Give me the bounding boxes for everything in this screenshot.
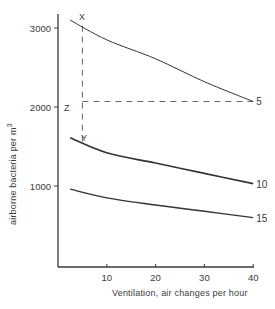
- curves: 51015: [70, 20, 268, 224]
- y-axis-label-sup: 3: [6, 123, 13, 127]
- y-tick-label: 3000: [30, 23, 51, 34]
- y-axis-label-text: airborne bacteria per m: [8, 127, 18, 225]
- y-ticks: 100020003000: [30, 23, 58, 192]
- curve-10: [70, 138, 253, 184]
- svg-text:airborne bacteria per m3: airborne bacteria per m3: [6, 123, 18, 225]
- x-tick-label: 40: [248, 272, 259, 283]
- point-label-x: X: [79, 12, 85, 22]
- y-tick-label: 2000: [30, 102, 51, 113]
- curve-label-5: 5: [256, 96, 262, 107]
- x-tick-label: 10: [102, 272, 113, 283]
- y-axis-label: airborne bacteria per m3: [6, 123, 18, 225]
- chart: 100020003000 10203040 51015 X Z Y Ventil…: [0, 0, 275, 309]
- curve-label-15: 15: [256, 213, 268, 224]
- curve-15: [70, 189, 253, 217]
- curve-label-10: 10: [256, 179, 268, 190]
- y-tick-label: 1000: [30, 181, 51, 192]
- point-label-z: Z: [64, 103, 70, 113]
- x-tick-label: 20: [150, 272, 161, 283]
- dashed-guides: [82, 26, 253, 142]
- curve-5: [70, 20, 253, 101]
- x-tick-label: 30: [199, 272, 210, 283]
- x-axis-label: Ventilation, air changes per hour: [112, 288, 248, 298]
- point-label-y: Y: [81, 133, 87, 143]
